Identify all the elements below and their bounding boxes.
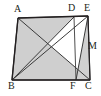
vertex-label-f: F: [70, 81, 76, 91]
vertex-label-c: C: [85, 81, 92, 91]
vertex-label-e: E: [84, 3, 90, 13]
vertex-label-d: D: [68, 3, 75, 13]
vertex-label-m: M: [88, 41, 97, 51]
geometry-figure: A D E M B F C: [0, 0, 101, 96]
vertex-label-a: A: [14, 4, 21, 14]
vertex-label-b: B: [8, 81, 15, 91]
